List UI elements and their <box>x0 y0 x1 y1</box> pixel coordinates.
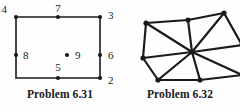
figure-problem-6-32: Problem 6.32 <box>120 0 240 112</box>
mesh-edge-n5-n8 <box>192 45 240 52</box>
node-label-9: 9 <box>75 49 81 61</box>
mesh-edge-n1-n5 <box>146 23 192 52</box>
figure-6-31-caption: Problem 6.31 <box>0 88 120 100</box>
mesh-node-4 <box>14 15 18 19</box>
node-label-7: 7 <box>55 2 61 14</box>
mesh-node-n6 <box>155 77 160 82</box>
mesh-node-2 <box>98 76 102 80</box>
node-label-5: 5 <box>55 61 61 73</box>
mesh-node-8 <box>14 53 18 57</box>
mesh-node-6 <box>98 53 102 57</box>
mesh-edge-n1-n4 <box>143 23 146 58</box>
mesh-node-n1 <box>143 20 148 25</box>
figure-page: 47389652 Problem 6.31 Problem 6.32 <box>0 0 240 112</box>
figure-6-32-caption: Problem 6.32 <box>120 88 240 100</box>
mesh-edge-n5-n9 <box>192 52 240 75</box>
figure-problem-6-31: 47389652 Problem 6.31 <box>0 0 120 112</box>
mesh-edge-n1-n2 <box>146 20 188 23</box>
node-label-8: 8 <box>23 49 29 61</box>
node-label-3: 3 <box>108 9 114 21</box>
mesh-node-n7 <box>197 77 202 82</box>
node-label-4: 4 <box>2 3 8 15</box>
mesh-node-n3 <box>221 10 226 15</box>
mesh-node-n2 <box>185 17 190 22</box>
mesh-edge-n7-n9 <box>200 75 240 80</box>
mesh-node-n5 <box>189 49 194 54</box>
figure-6-32-canvas <box>120 0 240 88</box>
mesh-node-n4 <box>140 55 145 60</box>
figure-6-31-canvas: 47389652 <box>0 0 120 88</box>
mesh-node-3 <box>98 15 102 19</box>
node-label-6: 6 <box>108 49 114 61</box>
node-label-2: 2 <box>108 74 114 86</box>
mesh-edge-n3-n8 <box>224 13 240 45</box>
mesh-edge-n2-n5 <box>188 20 192 52</box>
mesh-edge-n4-n6 <box>143 58 158 80</box>
mesh-node-9 <box>65 53 69 57</box>
mesh-node-5 <box>56 76 60 80</box>
mesh-node-7 <box>56 15 60 19</box>
